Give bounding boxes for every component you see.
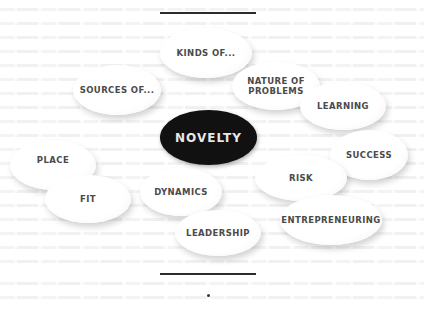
- node-learning: LEARNING: [300, 82, 386, 130]
- node-label: PLACE: [37, 155, 69, 165]
- bottom-rule: [160, 273, 256, 275]
- node-label: DYNAMICS: [154, 187, 208, 197]
- node-sources-of: SOURCES OF...: [73, 65, 161, 115]
- node-label: LEADERSHIP: [186, 228, 250, 238]
- node-label: SUCCESS: [346, 150, 392, 160]
- node-label: NATURE OF PROBLEMS: [247, 76, 305, 96]
- node-label: SOURCES OF...: [80, 85, 155, 95]
- node-label: LEARNING: [317, 101, 369, 111]
- node-label: FIT: [80, 194, 96, 204]
- node-label: KINDS OF...: [177, 48, 236, 58]
- node-label: ENTREPRENEURING: [281, 215, 380, 225]
- node-label: RISK: [289, 173, 313, 183]
- top-rule: [160, 12, 256, 14]
- node-dynamics: DYNAMICS: [140, 168, 222, 216]
- node-kinds-of: KINDS OF...: [160, 28, 252, 78]
- center-label: NOVELTY: [175, 131, 242, 145]
- node-novelty-center: NOVELTY: [160, 110, 257, 165]
- node-fit: FIT: [45, 175, 131, 223]
- node-leadership: LEADERSHIP: [175, 210, 261, 256]
- node-entrepreneuring: ENTREPRENEURING: [280, 195, 382, 245]
- bottom-dot: [207, 294, 210, 297]
